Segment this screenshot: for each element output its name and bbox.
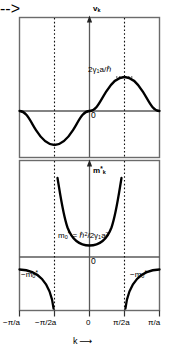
x-axis-arrow-icon: ⟶ <box>80 336 93 346</box>
x-tick-label-zero: 0 <box>86 319 90 327</box>
top-panel <box>20 16 160 158</box>
top-panel-y-axis-label-sub: k <box>97 7 100 13</box>
m0-mid: /2γ <box>87 231 98 240</box>
annotation-tail: a/ℏ <box>99 65 111 74</box>
x-axis-title-text: k <box>73 336 78 346</box>
m0-sup2: 2 <box>106 231 109 237</box>
m0-lead: m <box>58 231 65 240</box>
neg-m0-left-star: * <box>35 269 38 276</box>
x-tick-label-neg-pi-over-2a: −π/2a <box>35 319 56 327</box>
bottom-panel-zero-label: 0 <box>91 257 96 266</box>
bottom-panel-m0-formula: m0* = ℏ2/2γ1a2 <box>58 231 109 241</box>
neg-m0-left-lead: −m <box>21 270 32 279</box>
top-panel-y-axis-label: vk <box>93 5 100 14</box>
bottom-panel-neg-m0-label-left: −m0* <box>21 270 38 280</box>
neg-m0-right-star: * <box>144 269 147 276</box>
x-tick-label-pi-over-a: π/a <box>148 319 160 327</box>
neg-m0-right-lead: −m <box>130 270 141 279</box>
bottom-y-label-sub: k <box>103 169 106 175</box>
x-axis-ticks <box>20 311 160 317</box>
bottom-panel-neg-m0-label-right: −m0* <box>130 270 147 280</box>
m0-eq: = ℏ <box>70 231 84 240</box>
x-axis-title: k⟶ <box>73 337 92 346</box>
top-panel-amplitude-annotation: 2γ1a/ℏ <box>88 66 111 75</box>
x-tick-label-pi-over-2a: π/2a <box>113 319 130 327</box>
x-tick-label-neg-pi-over-a: −π/a <box>3 319 20 327</box>
figure-root <box>0 0 174 354</box>
bottom-panel-y-axis-label: m*k <box>93 166 106 176</box>
top-panel-zero-label: 0 <box>91 111 96 120</box>
